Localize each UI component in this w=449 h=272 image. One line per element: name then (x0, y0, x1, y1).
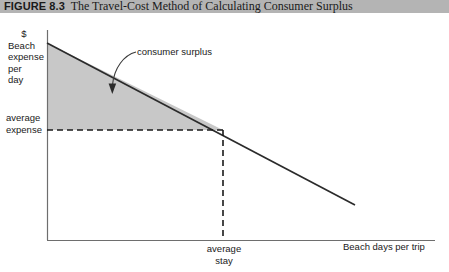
y-axis-label-line-1: Beach (8, 40, 44, 52)
average-stay-label-line-2: stay (196, 255, 252, 267)
average-stay-label: average stay (196, 243, 252, 266)
y-axis-label-line-2: expense (8, 51, 44, 63)
average-expense-label-line-1: average (6, 112, 50, 124)
y-axis-label-line-4: day (8, 74, 44, 86)
average-stay-label-line-1: average (196, 243, 252, 255)
y-axis-label-line-3: per (8, 63, 44, 75)
y-axis-label-currency: $ (14, 28, 34, 40)
x-axis-label: Beach days per trip (343, 241, 425, 253)
y-axis-label: $ Beach expense per day (8, 28, 44, 86)
average-expense-label: average expense (6, 112, 50, 135)
plot-canvas (0, 0, 449, 272)
figure-container: FIGURE 8.3 The Travel-Cost Method of Cal… (0, 0, 449, 272)
consumer-surplus-annotation: consumer surplus (137, 46, 212, 58)
average-expense-label-line-2: expense (6, 124, 50, 136)
